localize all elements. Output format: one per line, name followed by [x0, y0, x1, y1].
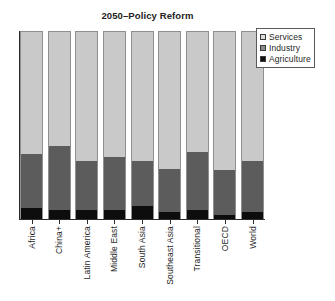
bar-segment-industry[interactable] [159, 169, 180, 212]
bar-segment-services[interactable] [214, 32, 235, 170]
tick-group [158, 220, 181, 224]
tick-group [103, 220, 126, 224]
bar-segment-services[interactable] [21, 32, 42, 154]
bar-segment-agriculture[interactable] [104, 210, 125, 219]
x-axis-labels: AfricaChina+Latin AmericaMiddle EastSout… [20, 226, 264, 301]
bar-segment-agriculture[interactable] [21, 208, 42, 219]
bar-segment-services[interactable] [104, 32, 125, 157]
x-axis-ticks [20, 220, 264, 224]
legend-label: Agriculture [269, 54, 311, 64]
tick-mark [87, 220, 88, 224]
tick-group [75, 220, 98, 224]
bar-segment-services[interactable] [159, 32, 180, 169]
x-axis-tick-label: China+ [54, 226, 64, 254]
x-axis-tick-label: South Asia [137, 226, 147, 268]
bar-segment-agriculture[interactable] [159, 212, 180, 219]
chart-title: 2050–Policy Reform [60, 10, 235, 21]
bar-stack[interactable] [20, 31, 43, 219]
bar-segment-industry[interactable] [76, 161, 97, 210]
bar-segment-industry[interactable] [132, 161, 153, 206]
tick-group [20, 220, 43, 224]
bar-segment-industry[interactable] [242, 161, 263, 211]
industry-swatch [260, 45, 266, 51]
bar-segment-services[interactable] [132, 32, 153, 161]
bar-stack[interactable] [158, 31, 181, 219]
tick-mark [114, 220, 115, 224]
tick-mark [59, 220, 60, 224]
x-label-slot: World [241, 226, 264, 301]
tick-group [241, 220, 264, 224]
bar-stack[interactable] [131, 31, 154, 219]
tick-mark [170, 220, 171, 224]
bar-segment-agriculture[interactable] [187, 210, 208, 219]
x-label-slot: Africa [20, 226, 43, 301]
bar-segment-industry[interactable] [49, 146, 70, 210]
bar-stack[interactable] [213, 31, 236, 219]
x-label-slot: Middle East [103, 226, 126, 301]
tick-group [131, 220, 154, 224]
tick-mark [253, 220, 254, 224]
bar-segment-agriculture[interactable] [242, 212, 263, 219]
agriculture-swatch [260, 56, 266, 62]
bar-segment-agriculture[interactable] [76, 210, 97, 219]
bar-segment-services[interactable] [49, 32, 70, 146]
tick-mark [142, 220, 143, 224]
services-swatch [260, 34, 266, 40]
bar-segment-agriculture[interactable] [214, 215, 235, 219]
x-axis-tick-label: Transitional [192, 226, 202, 271]
legend-item-services[interactable]: Services [260, 31, 311, 42]
x-axis-tick-label: Southeast Asia [165, 226, 175, 285]
x-axis-tick-label: Middle East [109, 226, 119, 272]
x-label-slot: South Asia [131, 226, 154, 301]
tick-mark [225, 220, 226, 224]
bar-stack[interactable] [103, 31, 126, 219]
bar-stack[interactable] [186, 31, 209, 219]
x-axis-tick-label: OECD [220, 226, 230, 251]
x-label-slot: Transitional [186, 226, 209, 301]
bar-segment-agriculture[interactable] [132, 206, 153, 219]
bar-segment-industry[interactable] [214, 170, 235, 215]
x-label-slot: Latin America [75, 226, 98, 301]
bar-segment-agriculture[interactable] [49, 210, 70, 219]
legend-item-agriculture[interactable]: Agriculture [260, 53, 311, 64]
legend-label: Industry [269, 43, 300, 53]
x-label-slot: China+ [48, 226, 71, 301]
tick-group [48, 220, 71, 224]
stacked-bar-chart-figure: 2050–Policy Reform AfricaChina+Latin Ame… [0, 0, 335, 301]
x-axis-tick-label: Latin America [82, 226, 92, 279]
tick-group [186, 220, 209, 224]
bar-segment-services[interactable] [76, 32, 97, 161]
legend-label: Services [269, 32, 302, 42]
bar-segment-services[interactable] [187, 32, 208, 152]
bar-stack[interactable] [75, 31, 98, 219]
legend-item-industry[interactable]: Industry [260, 42, 311, 53]
x-label-slot: Southeast Asia [158, 226, 181, 301]
x-axis-tick-label: Africa [27, 226, 37, 249]
tick-mark [32, 220, 33, 224]
bars-layer [20, 31, 264, 219]
tick-mark [197, 220, 198, 224]
bar-segment-industry[interactable] [21, 154, 42, 208]
bar-segment-industry[interactable] [187, 152, 208, 210]
chart-legend: ServicesIndustryAgriculture [256, 28, 315, 68]
bar-segment-industry[interactable] [104, 157, 125, 209]
bar-stack[interactable] [48, 31, 71, 219]
x-label-slot: OECD [213, 226, 236, 301]
tick-group [213, 220, 236, 224]
x-axis-tick-label: World [248, 226, 258, 249]
